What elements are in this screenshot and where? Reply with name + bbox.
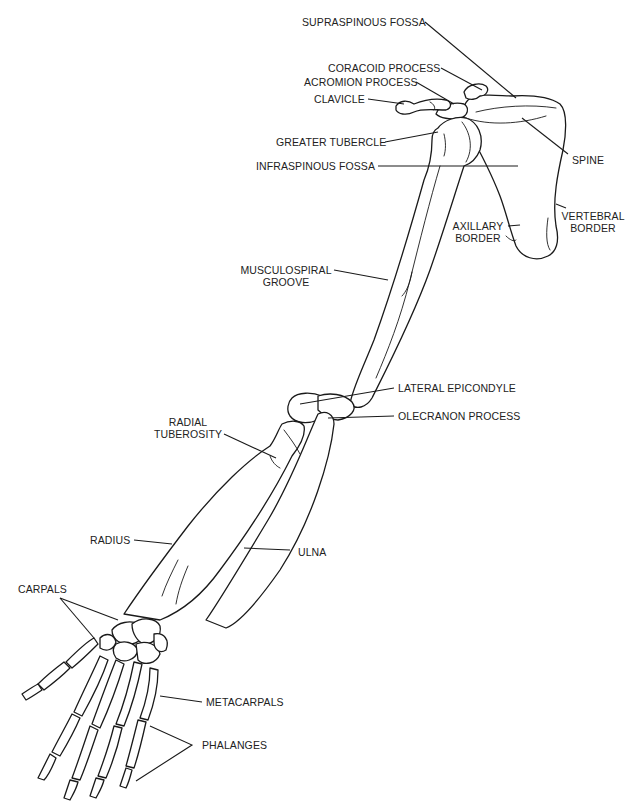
label-vertebral-border-line1: VERTEBRAL	[560, 210, 626, 222]
label-spine: SPINE	[572, 154, 604, 166]
label-axillary-border-line1: AXILLARY	[448, 220, 508, 232]
label-supraspinous-fossa: SUPRASPINOUS FOSSA	[302, 16, 426, 28]
label-olecranon-process: OLECRANON PROCESS	[398, 410, 520, 422]
label-vertebral-border: VERTEBRAL BORDER	[560, 210, 626, 234]
label-musculospiral-groove-line1: MUSCULOSPIRAL	[238, 264, 334, 276]
label-ulna: ULNA	[298, 546, 326, 558]
label-coracoid-process: CORACOID PROCESS	[328, 62, 440, 74]
label-carpals: CARPALS	[18, 583, 67, 595]
carpals	[100, 619, 167, 663]
label-radial-tuberosity: RADIAL TUBEROSITY	[152, 416, 224, 440]
arm-skeleton-diagram	[0, 0, 628, 811]
label-radial-tuberosity-line1: RADIAL	[152, 416, 224, 428]
label-infraspinous-fossa: INFRASPINOUS FOSSA	[256, 160, 375, 172]
label-vertebral-border-line2: BORDER	[560, 222, 626, 234]
label-musculospiral-groove-line2: GROOVE	[238, 276, 334, 288]
label-musculospiral-groove: MUSCULOSPIRAL GROOVE	[238, 264, 334, 288]
label-clavicle: CLAVICLE	[314, 93, 365, 105]
label-acromion-process: ACROMION PROCESS	[304, 76, 418, 88]
label-axillary-border: AXILLARY BORDER	[448, 220, 508, 244]
label-radius: RADIUS	[90, 534, 130, 546]
forearm	[124, 412, 334, 628]
label-axillary-border-line2: BORDER	[448, 232, 508, 244]
label-greater-tubercle: GREATER TUBERCLE	[276, 136, 386, 148]
label-lateral-epicondyle: LATERAL EPICONDYLE	[398, 382, 516, 394]
label-phalanges: PHALANGES	[202, 739, 267, 751]
hand	[22, 638, 158, 800]
label-metacarpals: METACARPALS	[206, 696, 284, 708]
label-radial-tuberosity-line2: TUBEROSITY	[152, 428, 224, 440]
